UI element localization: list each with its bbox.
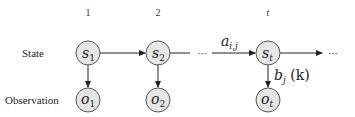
ellipsis-middle: ··· <box>197 48 207 59</box>
time-index-t: t <box>267 7 270 18</box>
observation-node-t: ot <box>256 88 280 112</box>
emission-label: bj (k) <box>274 67 310 85</box>
ellipsis-right: ··· <box>328 48 338 59</box>
transition-label: ai,j <box>221 33 238 51</box>
observation-node-1: o1 <box>76 88 100 112</box>
state-node-t: st <box>256 41 280 65</box>
hmm-diagram: State Observation 1 2 t ··· ··· ai,j bj … <box>0 0 355 117</box>
observation-row-label: Observation <box>5 94 59 106</box>
time-index-1: 1 <box>86 7 91 18</box>
observation-node-2: o2 <box>146 88 170 112</box>
state-node-1: s1 <box>76 41 100 65</box>
state-row-label: State <box>22 47 44 59</box>
time-index-2: 2 <box>156 7 161 18</box>
state-node-2: s2 <box>146 41 170 65</box>
